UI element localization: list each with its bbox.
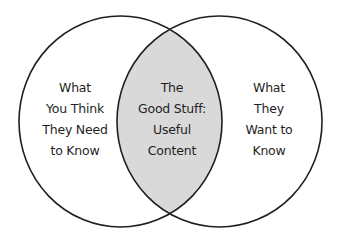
left-label-line: They Need (25, 119, 125, 140)
left-label-line: to Know (25, 140, 125, 161)
right-label-line: Want to (219, 119, 319, 140)
right-label-line: They (219, 98, 319, 119)
left-label-line: You Think (25, 98, 125, 119)
right-label-line: Know (219, 140, 319, 161)
left-set-label: What You Think They Need to Know (25, 77, 125, 161)
intersection-label-line: The (122, 77, 222, 98)
right-set-label: What They Want to Know (219, 77, 319, 161)
intersection-label-line: Content (122, 140, 222, 161)
intersection-label-line: Good Stuff: (122, 98, 222, 119)
right-label-line: What (219, 77, 319, 98)
intersection-label: The Good Stuff: Useful Content (122, 77, 222, 161)
intersection-label-line: Useful (122, 119, 222, 140)
left-label-line: What (25, 77, 125, 98)
